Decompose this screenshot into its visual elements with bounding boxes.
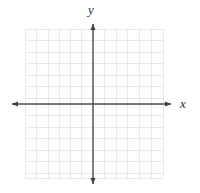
axis-lines	[12, 24, 171, 184]
graph-canvas	[0, 0, 200, 193]
y-axis-label: y	[88, 3, 94, 16]
coordinate-plane-figure: y x	[0, 0, 200, 193]
x-axis-label: x	[180, 97, 186, 110]
